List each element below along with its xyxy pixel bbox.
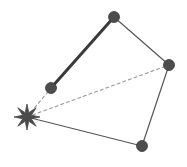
node-circle-bottom[interactable] bbox=[137, 141, 148, 152]
background bbox=[0, 0, 187, 167]
node-circle-top[interactable] bbox=[109, 12, 120, 23]
node-star-star[interactable] bbox=[14, 104, 40, 130]
node-circle-right[interactable] bbox=[164, 60, 175, 71]
figure-canvas bbox=[0, 0, 187, 167]
graph-diagram bbox=[0, 0, 187, 167]
node-circle-left[interactable] bbox=[46, 83, 57, 94]
